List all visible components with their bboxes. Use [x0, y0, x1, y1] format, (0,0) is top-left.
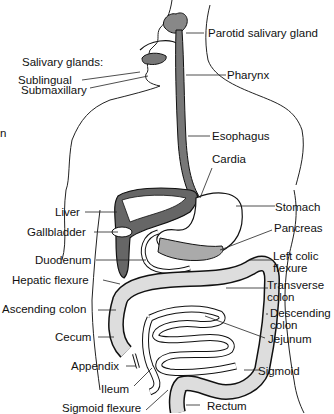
sublingual-gland: [142, 53, 166, 64]
oral-cavity: [140, 41, 178, 50]
leader-sigmoid-flexure: [146, 390, 168, 410]
label-descending-colon-line1: Descending: [270, 307, 331, 319]
label-pharynx: Pharynx: [227, 69, 269, 81]
label-hepatic-flexure: Hepatic flexure: [12, 274, 89, 286]
label-transverse-colon-line1: Transverse: [267, 279, 324, 291]
label-cardia: Cardia: [212, 153, 246, 165]
leader-sublingual: [82, 72, 140, 80]
esophagus: [176, 30, 200, 204]
label-submaxillary: Submaxillary: [21, 84, 87, 96]
parotid-gland: [163, 13, 187, 33]
partial-cropped-text: n: [0, 127, 6, 139]
label-sigmoid: Sigmoid: [258, 365, 300, 377]
label-salivary-glands: Salivary glands:: [22, 56, 103, 68]
label-gallbladder: Gallbladder: [27, 226, 86, 238]
label-stomach: Stomach: [275, 201, 320, 213]
face-outline: [146, 0, 172, 86]
leader-hepatic: [103, 280, 120, 284]
label-cecum: Cecum: [55, 331, 91, 343]
label-esophagus: Esophagus: [212, 130, 270, 142]
label-rectum: Rectum: [207, 400, 247, 412]
leader-ileum: [134, 368, 152, 386]
label-ascending-colon: Ascending colon: [2, 303, 86, 315]
label-sigmoid-flexure: Sigmoid flexure: [62, 402, 141, 414]
label-pancreas: Pancreas: [274, 222, 323, 234]
label-duodenum: Duodenum: [35, 254, 91, 266]
label-left-colic-flexure-line1: Left colic: [273, 250, 318, 262]
label-descending-colon-line2: colon: [270, 319, 298, 331]
label-parotid-salivary-gland: Parotid salivary gland: [208, 27, 318, 39]
label-appendix: Appendix: [71, 360, 119, 372]
label-jejunum: Jejunum: [268, 333, 311, 345]
label-ileum: Ileum: [101, 383, 129, 395]
label-transverse-colon-line2: colon: [267, 291, 295, 303]
label-liver: Liver: [55, 206, 80, 218]
label-left-colic-flexure-line2: flexure: [273, 262, 308, 274]
